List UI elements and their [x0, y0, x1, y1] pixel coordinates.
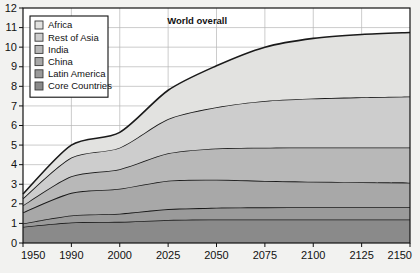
legend-swatch — [35, 70, 43, 78]
y-tick-label: 5 — [11, 139, 17, 151]
legend-item-africa[interactable]: Africa — [35, 19, 73, 30]
x-tick-label: 1990 — [59, 249, 83, 261]
x-tick-label: 2100 — [301, 249, 325, 261]
y-tick-label: 1 — [11, 217, 17, 229]
legend-swatch — [35, 58, 43, 66]
legend-swatch — [35, 45, 43, 53]
legend-label: Core Countries — [48, 80, 112, 91]
y-tick-label: 7 — [11, 100, 17, 112]
y-tick-label: 11 — [6, 21, 17, 33]
legend-label: India — [48, 44, 69, 55]
y-tick-label: 0 — [11, 237, 17, 249]
x-tick-label: 2025 — [156, 249, 180, 261]
legend-swatch — [35, 33, 43, 41]
annotation-world-overall: World overall — [167, 15, 227, 26]
legend: AfricaRest of AsiaIndiaChinaLatin Americ… — [30, 16, 112, 97]
legend-swatch — [35, 21, 43, 29]
x-tick-label: 2150 — [388, 249, 412, 261]
y-tick-label: 12 — [5, 2, 17, 14]
legend-label: China — [48, 56, 74, 67]
y-tick-label: 4 — [11, 158, 17, 170]
y-tick-label: 8 — [11, 80, 17, 92]
legend-label: Rest of Asia — [48, 32, 99, 43]
annotations: World overall — [167, 15, 227, 26]
legend-label: Africa — [48, 19, 73, 30]
legend-label: Latin America — [48, 68, 106, 79]
y-tick-label: 2 — [11, 197, 17, 209]
x-tick-label: 2000 — [108, 249, 132, 261]
legend-item-china[interactable]: China — [35, 56, 74, 67]
population-projection-area-chart: 0123456789101112195019902000202520502075… — [0, 0, 420, 273]
legend-swatch — [35, 82, 43, 90]
x-tick-label: 2125 — [349, 249, 373, 261]
y-tick-label: 6 — [11, 119, 17, 131]
chart-page: 0123456789101112195019902000202520502075… — [0, 0, 420, 273]
y-tick-label: 10 — [5, 41, 17, 53]
y-tick-label: 9 — [11, 60, 17, 72]
x-tick-label: 1950 — [21, 249, 45, 261]
legend-item-india[interactable]: India — [35, 44, 69, 55]
y-tick-label: 3 — [11, 178, 17, 190]
area-band-core-countries — [23, 219, 410, 243]
x-tick-label: 2050 — [204, 249, 228, 261]
x-tick-label: 2075 — [253, 249, 277, 261]
